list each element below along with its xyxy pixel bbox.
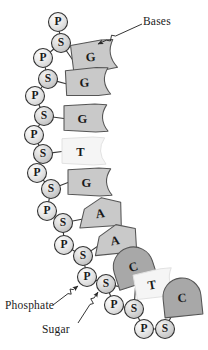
phosphate-node: P	[26, 87, 45, 106]
sugar-base-bond	[71, 219, 81, 221]
phosphate-node: P	[49, 13, 68, 32]
node-letter: P	[110, 298, 117, 310]
base-letter: C	[177, 291, 187, 306]
sugar-node: S	[35, 107, 54, 126]
node-letter: S	[60, 216, 66, 228]
node-letter: S	[40, 147, 46, 159]
phosphate-annotation-label: Phosphate	[5, 299, 54, 311]
phosphate-node: P	[55, 236, 74, 255]
sugar-base-bond	[52, 117, 64, 118]
sugar-node: S	[34, 145, 53, 164]
phosphate-node: P	[78, 268, 97, 287]
node-letter: P	[30, 128, 37, 140]
node-letter: S	[41, 109, 47, 121]
bases-leader-arrow	[98, 24, 142, 44]
node-letter: P	[33, 166, 40, 178]
base-g: G	[64, 104, 108, 132]
sugar-base-bond	[51, 152, 62, 153]
sugar-node: S	[39, 70, 58, 89]
node-letter: S	[131, 302, 137, 314]
sugar-node: S	[52, 34, 71, 53]
base-letter: G	[82, 176, 92, 190]
node-letter: P	[60, 238, 67, 250]
node-letter: P	[140, 322, 147, 334]
base-g: G	[68, 168, 112, 196]
dna-backbone-figure: GGGTGAACTC PSPSPSPSPSPSPSPSPSPS Bases Ph…	[0, 0, 208, 350]
bases-annotation-label: Bases	[143, 15, 171, 27]
sugar-node: S	[74, 247, 93, 266]
phosphate-node: P	[105, 296, 124, 315]
phosphate-node: P	[25, 126, 44, 145]
sugar-node: S	[156, 320, 175, 339]
phosphate-node: P	[135, 320, 154, 339]
node-letter: S	[80, 249, 86, 261]
node-letter: P	[54, 15, 61, 27]
base-letter: T	[76, 145, 85, 159]
phosphate-leader-arrow	[53, 286, 78, 305]
phosphate-node: P	[38, 202, 57, 221]
sugar-leader-arrow	[78, 292, 98, 323]
node-letter: P	[39, 51, 46, 63]
node-letter: P	[83, 270, 90, 282]
base-g: G	[65, 67, 110, 97]
sugar-node: S	[97, 275, 116, 294]
node-letter: P	[43, 204, 50, 216]
sugar-node: S	[125, 300, 144, 319]
sugar-node: S	[42, 180, 61, 199]
node-letter: S	[48, 182, 54, 194]
sugar-annotation-label: Sugar	[42, 323, 70, 335]
node-letter: S	[45, 72, 51, 84]
node-letter: S	[58, 36, 64, 48]
node-letter: S	[103, 277, 109, 289]
dna-diagram-canvas: GGGTGAACTC PSPSPSPSPSPSPSPSPSPS	[0, 0, 208, 350]
node-letter: S	[162, 322, 168, 334]
base-letter: G	[79, 75, 90, 90]
phosphate-node: P	[28, 164, 47, 183]
base-t: T	[62, 137, 106, 165]
base-letter: G	[78, 112, 88, 126]
phosphate-node: P	[34, 49, 53, 68]
node-letter: P	[31, 89, 38, 101]
base-letter: G	[85, 50, 97, 65]
sugar-node: S	[54, 214, 73, 233]
base-letter: A	[95, 206, 106, 221]
